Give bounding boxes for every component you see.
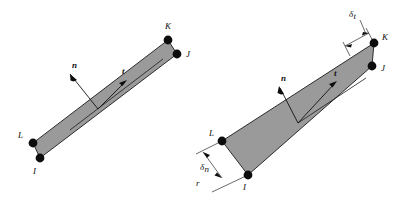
delta-t-subscript: t <box>354 11 357 21</box>
dim-top-leader <box>360 20 366 34</box>
right-node-K-label: K <box>381 32 389 42</box>
delta-n-symbol: δn <box>200 162 210 174</box>
right-node-J-dot <box>368 62 377 71</box>
right-diagram: n t δt <box>0 0 405 201</box>
delta-t-symbol: δt <box>349 9 357 21</box>
right-node-I-dot <box>244 171 253 180</box>
right-r-label: r <box>196 178 200 188</box>
right-element-body <box>222 43 374 175</box>
right-panel-surface <box>222 43 374 175</box>
dim-top-arrowhead-left <box>345 44 352 48</box>
right-node-J-label: J <box>381 63 386 73</box>
dim-top-measure-line <box>345 33 369 46</box>
right-normal-label: n <box>281 73 286 83</box>
right-normal-arrowhead <box>278 86 285 95</box>
right-node-L-dot <box>218 137 227 146</box>
right-node-L-label: L <box>208 128 214 138</box>
right-node-K-dot <box>370 39 379 48</box>
dim-bottom-arrowhead-upper <box>203 152 210 158</box>
figure-root: n t I L K J n <box>0 0 405 201</box>
right-node-I-label: I <box>242 182 247 192</box>
delta-n-subscript: n <box>205 164 210 174</box>
